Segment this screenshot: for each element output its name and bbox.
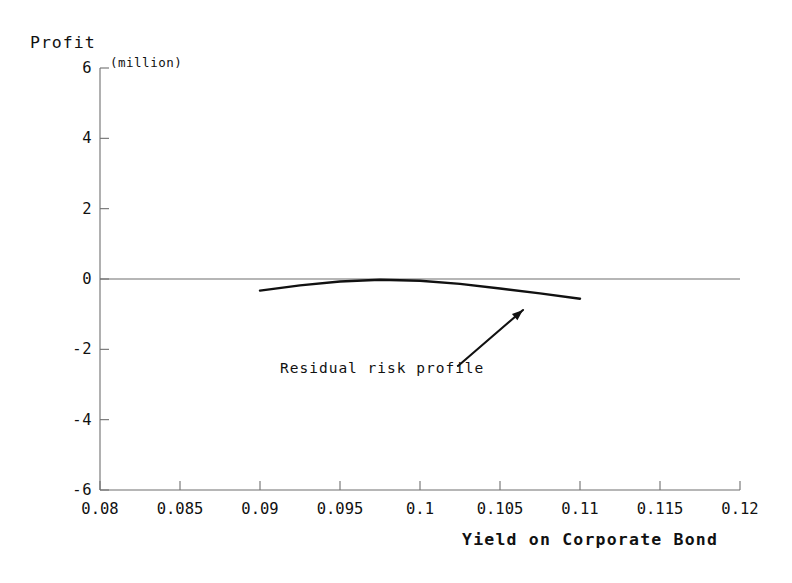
- x-tick-label: 0.115: [625, 500, 695, 518]
- x-tick-label: 0.09: [225, 500, 295, 518]
- chart-page: Profit (million) Yield on Corporate Bond…: [0, 0, 792, 583]
- annotation-arrow-shaft: [458, 310, 523, 366]
- annotation-label: Residual risk profile: [280, 360, 484, 376]
- x-tick-label: 0.085: [145, 500, 215, 518]
- y-tick-label: -6: [52, 481, 92, 499]
- y-axis-title: Profit: [30, 33, 96, 52]
- x-tick-label: 0.105: [465, 500, 535, 518]
- y-tick-label: 4: [52, 129, 92, 147]
- x-tick-label: 0.08: [65, 500, 135, 518]
- residual-risk-profile-curve: [260, 280, 580, 299]
- y-tick-label: -2: [52, 340, 92, 358]
- x-axis-title: Yield on Corporate Bond: [462, 530, 718, 549]
- chart-canvas: [0, 0, 792, 583]
- x-tick-label: 0.12: [705, 500, 775, 518]
- y-tick-label: -4: [52, 411, 92, 429]
- x-tick-label: 0.095: [305, 500, 375, 518]
- x-tick-label: 0.11: [545, 500, 615, 518]
- y-tick-label: 2: [52, 200, 92, 218]
- y-axis-unit-label: (million): [110, 55, 182, 70]
- y-tick-label: 0: [52, 270, 92, 288]
- x-tick-label: 0.1: [385, 500, 455, 518]
- y-tick-label: 6: [52, 59, 92, 77]
- annotation-arrow-group: [458, 310, 523, 366]
- data-curve-group: [260, 280, 580, 299]
